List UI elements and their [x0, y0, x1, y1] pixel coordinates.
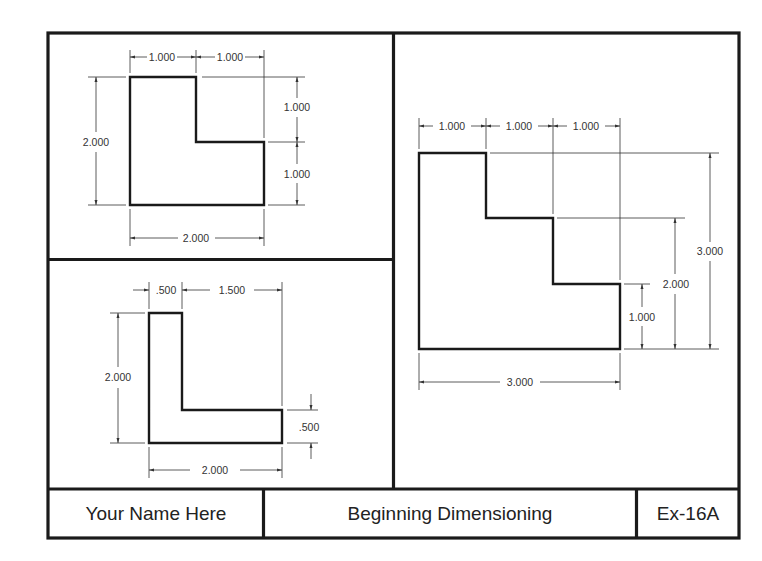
view-3-dim-bottom: 3.000 [507, 376, 533, 388]
view-3: 1.000 1.000 1.000 1.000 2.000 3.000 3.00… [419, 118, 723, 390]
view-3-dim-top-3: 1.000 [573, 120, 599, 132]
view-1-dim-top-left: 1.000 [149, 51, 175, 63]
view-3-dim-top-2: 1.000 [506, 120, 532, 132]
view-3-dim-right-2: 2.000 [663, 278, 689, 290]
drawing-sheet: 1.000 1.000 2.000 1.000 1.000 2.000 [0, 0, 762, 561]
view-1-outline [130, 77, 264, 205]
view-1-dim-top-right: 1.000 [217, 51, 243, 63]
view-3-outline [419, 153, 620, 349]
view-2-dim-bottom: 2.000 [202, 464, 228, 476]
border-frame [48, 33, 739, 538]
view-1-dim-left: 2.000 [83, 136, 109, 148]
view-1-dim-bottom: 2.000 [183, 232, 209, 244]
view-1-dim-right-lower: 1.000 [284, 168, 310, 180]
view-2-dim-top-right: 1.500 [219, 284, 245, 296]
title-block-exercise: Ex-16A [638, 491, 738, 537]
view-3-dim-top-1: 1.000 [439, 120, 465, 132]
view-1: 1.000 1.000 2.000 1.000 1.000 2.000 [83, 50, 310, 246]
view-2-dim-top-left: .500 [156, 284, 177, 296]
view-2-dim-right: .500 [299, 421, 320, 433]
title-block-title: Beginning Dimensioning [265, 491, 635, 537]
view-1-dim-right-upper: 1.000 [284, 101, 310, 113]
title-block-name: Your Name Here [50, 491, 262, 537]
view-2-outline [149, 313, 282, 443]
view-3-dim-right-3: 3.000 [697, 245, 723, 257]
view-2: .500 1.500 2.000 .500 2.000 [105, 282, 320, 478]
view-2-dim-left: 2.000 [105, 371, 131, 383]
view-3-dim-right-1: 1.000 [629, 311, 655, 323]
